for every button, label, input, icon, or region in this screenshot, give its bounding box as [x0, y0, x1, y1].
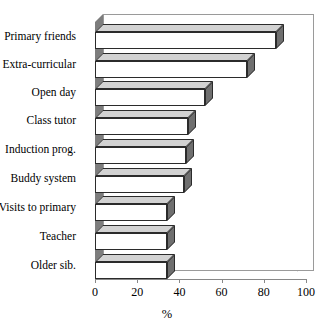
x-tick-label-20: 20 — [117, 285, 157, 299]
category-label-class-tutor: Class tutor — [26, 114, 76, 126]
bar-front-face-0 — [95, 32, 276, 49]
x-tick-label-60: 60 — [202, 285, 242, 299]
bar-4 — [95, 139, 194, 164]
x-tick-60 — [222, 279, 223, 283]
bar-8 — [95, 254, 175, 279]
bar-top-face-1 — [95, 53, 255, 61]
x-tick-20 — [137, 279, 138, 283]
category-label-extra-curricular: Extra-curricular — [3, 58, 76, 70]
bar-1 — [95, 53, 255, 78]
category-label-buddy-system: Buddy system — [11, 172, 77, 184]
bar-front-face-1 — [95, 61, 247, 78]
bar-chart: Primary friends Extra-curricular Open da… — [0, 0, 334, 330]
x-tick-0 — [95, 279, 96, 283]
bar-front-face-2 — [95, 89, 205, 106]
x-tick-label-40: 40 — [159, 285, 199, 299]
bar-front-face-3 — [95, 118, 188, 135]
category-label-induction-prog: Induction prog. — [5, 143, 76, 155]
bar-5 — [95, 168, 192, 193]
bar-top-face-7 — [95, 225, 175, 233]
bar-front-face-5 — [95, 176, 184, 193]
x-tick-label-100: 100 — [286, 285, 326, 299]
x-tick-100 — [306, 279, 307, 283]
bar-front-face-4 — [95, 147, 186, 164]
bar-2 — [95, 81, 213, 106]
bar-front-face-6 — [95, 204, 167, 221]
x-tick-80 — [264, 279, 265, 283]
bar-front-face-8 — [95, 262, 167, 279]
x-tick-40 — [179, 279, 180, 283]
bar-top-face-4 — [95, 139, 194, 147]
x-axis-title: % — [0, 307, 334, 322]
bar-3 — [95, 110, 196, 135]
category-label-primary-friends: Primary friends — [4, 30, 76, 42]
bar-top-face-3 — [95, 110, 196, 118]
category-label-open-day: Open day — [32, 86, 76, 98]
x-axis-depth-edge — [297, 271, 309, 280]
bar-front-face-7 — [95, 233, 167, 250]
category-label-teacher: Teacher — [40, 230, 76, 242]
bar-top-face-6 — [95, 196, 175, 204]
bar-top-face-8 — [95, 254, 175, 262]
chart-title — [0, 0, 334, 8]
bar-top-face-2 — [95, 81, 213, 89]
category-label-visits-to-primary: Visits to primary — [0, 201, 76, 213]
bar-top-face-0 — [95, 24, 284, 32]
category-label-older-sib: Older sib. — [31, 259, 76, 271]
x-axis-line — [95, 279, 306, 280]
bar-7 — [95, 225, 175, 250]
bar-6 — [95, 196, 175, 221]
bar-top-face-5 — [95, 168, 192, 176]
x-tick-label-80: 80 — [244, 285, 284, 299]
bar-0 — [95, 24, 284, 49]
x-tick-label-0: 0 — [75, 285, 115, 299]
